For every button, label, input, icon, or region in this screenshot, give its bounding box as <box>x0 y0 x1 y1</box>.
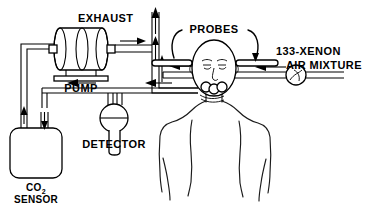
exhaust-label: EXHAUST <box>78 12 133 24</box>
detector-label: DETECTOR <box>82 138 146 150</box>
arrow-into-co2-sensor <box>41 112 48 130</box>
inhalation-pipe <box>163 72 344 78</box>
arrow-exhaust-upper <box>152 36 159 60</box>
probes-label: PROBES <box>190 23 239 35</box>
co2-sensor[interactable] <box>10 108 62 178</box>
pump[interactable] <box>49 28 115 81</box>
arrow-pump-outlet <box>120 38 146 45</box>
co2-sensor-label-line2: SENSOR <box>14 194 59 205</box>
xenon-label-line2: AIR MIXTURE <box>286 59 362 71</box>
arrow-exhaust-top <box>152 7 160 34</box>
patient-torso <box>159 92 271 201</box>
pump-to-exhaust-pipe <box>115 45 152 52</box>
figure-canvas: PUMP EXH <box>0 0 382 209</box>
apparatus-diagram: PUMP EXH <box>0 0 382 209</box>
xenon-label-line1: 133-XENON <box>276 45 341 57</box>
mouthpiece <box>200 82 227 102</box>
